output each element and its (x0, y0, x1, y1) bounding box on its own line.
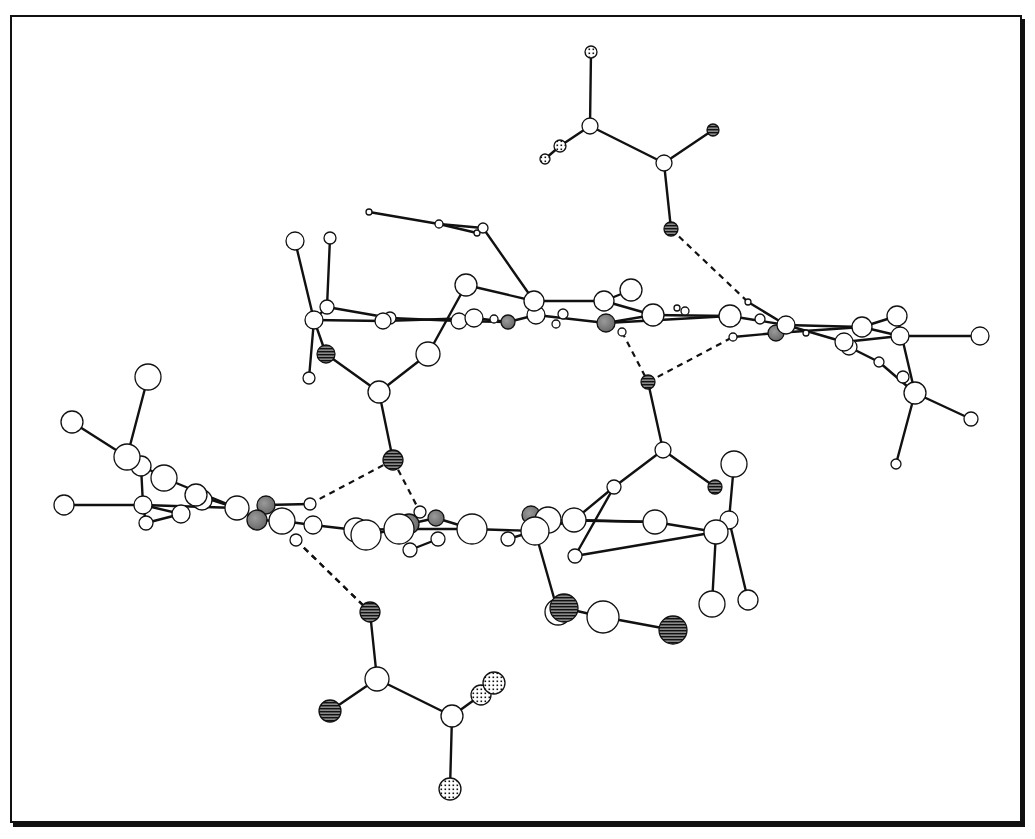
atom-dotted (439, 778, 461, 800)
atom-plain (887, 306, 907, 326)
atom-plain (366, 209, 372, 215)
atom-plain (351, 520, 381, 550)
atom-plain (303, 372, 315, 384)
atom-plain (431, 532, 445, 546)
atom-plain (305, 311, 323, 329)
atom-plain (368, 381, 390, 403)
atom-dotted (540, 154, 550, 164)
atom-plain (441, 705, 463, 727)
atom-plain (269, 508, 295, 534)
atom-plain (304, 516, 322, 534)
atom-plain (568, 549, 582, 563)
bond (664, 163, 671, 229)
atom-plain (54, 495, 74, 515)
atom-plain (114, 444, 140, 470)
bond-layer (64, 52, 980, 789)
atom-metal (247, 510, 267, 530)
atom-dotted (483, 672, 505, 694)
bond (729, 520, 748, 600)
atom-hatched (659, 616, 687, 644)
atom-plain (365, 667, 389, 691)
atom-plain (803, 330, 809, 336)
atom-plain (521, 517, 549, 545)
atom-plain (384, 514, 414, 544)
atom-hatched (383, 450, 403, 470)
atom-plain (587, 601, 619, 633)
atom-plain (699, 591, 725, 617)
atom-plain (558, 309, 568, 319)
atom-plain (524, 291, 544, 311)
bond (614, 450, 663, 487)
atom-hatched (550, 594, 578, 622)
atom-plain (643, 510, 667, 534)
atom-dotted (554, 140, 566, 152)
hydrogen-bond (671, 229, 748, 302)
atom-plain (897, 371, 909, 383)
atom-hatched (360, 602, 380, 622)
atom-plain (465, 309, 483, 327)
atom-plain (286, 232, 304, 250)
atom-plain (151, 465, 177, 491)
atom-hatched (708, 480, 722, 494)
molecule-diagram (0, 0, 1035, 839)
atom-plain (451, 313, 467, 329)
bond (327, 238, 330, 307)
bond (369, 212, 439, 224)
bond (590, 126, 664, 163)
atom-plain (185, 484, 207, 506)
atom-plain (172, 505, 190, 523)
atom-plain (403, 543, 417, 557)
atom-plain (971, 327, 989, 345)
atom-plain (755, 314, 765, 324)
atom-plain (620, 279, 642, 301)
atom-hatched (707, 124, 719, 136)
atom-plain (61, 411, 83, 433)
atom-plain (964, 412, 978, 426)
atom-plain (729, 333, 737, 341)
atom-metal (428, 510, 444, 526)
atom-plain (490, 315, 498, 323)
atom-plain (552, 320, 560, 328)
bond (314, 320, 383, 321)
atom-dotted (585, 46, 597, 58)
atom-hatched (317, 345, 335, 363)
atom-metal (501, 315, 515, 329)
bond (575, 532, 716, 556)
bond (295, 241, 314, 320)
atom-plain (674, 305, 680, 311)
atom-plain (642, 304, 664, 326)
hydrogen-bond (648, 337, 733, 382)
bond (786, 325, 862, 327)
atom-plain (320, 300, 334, 314)
atom-plain (891, 459, 901, 469)
bond (648, 382, 663, 450)
atom-plain (562, 508, 586, 532)
bond (663, 450, 715, 487)
bond (536, 315, 606, 323)
atom-plain (582, 118, 598, 134)
atom-plain (304, 498, 316, 510)
atom-plain (135, 364, 161, 390)
atom-plain (704, 520, 728, 544)
atom-plain (416, 342, 440, 366)
atom-hatched (319, 700, 341, 722)
atom-plain (134, 496, 152, 514)
atom-plain (738, 590, 758, 610)
atom-plain (721, 451, 747, 477)
hydrogen-bond (622, 332, 648, 382)
atom-plain (655, 442, 671, 458)
atom-plain (478, 223, 488, 233)
atom-plain (435, 220, 443, 228)
atom-plain (618, 328, 626, 336)
hydrogen-bond (296, 540, 370, 612)
atom-plain (777, 316, 795, 334)
atom-hatched (641, 375, 655, 389)
atom-plain (681, 307, 689, 315)
bond (590, 52, 591, 126)
atom-plain (874, 357, 884, 367)
atom-plain (852, 317, 872, 337)
hydrogen-bond (310, 460, 393, 504)
atom-plain (501, 532, 515, 546)
atom-plain (891, 327, 909, 345)
atom-layer (54, 46, 989, 800)
